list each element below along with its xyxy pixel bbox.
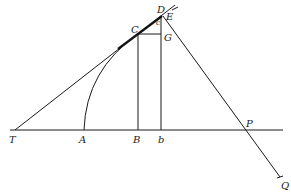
label-a: A <box>78 134 86 145</box>
curve-arc <box>84 34 138 130</box>
tick-e <box>172 7 178 10</box>
label-d: D <box>156 4 165 15</box>
label-e: E <box>165 11 174 22</box>
label-p: P <box>245 118 253 129</box>
label-c-lower: c <box>156 19 160 27</box>
label-q: Q <box>281 180 289 191</box>
label-b-upper: B <box>132 134 140 145</box>
label-g: G <box>164 32 172 43</box>
label-b-lower: b <box>158 134 164 145</box>
normal-line <box>163 16 280 177</box>
geometric-diagram: T A B b P Q C G D E c <box>0 0 291 195</box>
label-t: T <box>9 134 17 145</box>
label-c-upper: C <box>131 24 139 35</box>
